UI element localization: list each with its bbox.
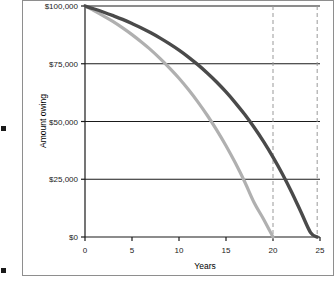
y-tick-label: $0 — [69, 233, 78, 242]
y-tick-label: $100,000 — [45, 2, 79, 11]
x-tick-label: 0 — [83, 246, 88, 255]
x-axis-tick-labels: 0510152025 — [83, 246, 325, 255]
x-tick-label: 10 — [175, 246, 184, 255]
y-axis-tick-labels: $0$25,000$50,000$75,000$100,000 — [45, 2, 79, 242]
amortization-chart: $0$25,000$50,000$75,000$100,000 05101520… — [0, 0, 335, 283]
y-axis-label: Amount owing — [38, 94, 48, 148]
x-axis-ticks — [85, 237, 320, 241]
y-tick-label: $75,000 — [49, 60, 78, 69]
x-tick-label: 20 — [269, 246, 278, 255]
x-tick-label: 25 — [316, 246, 325, 255]
y-tick-label: $50,000 — [49, 118, 78, 127]
x-tick-label: 5 — [130, 246, 135, 255]
x-axis-label: Years — [194, 261, 215, 271]
x-tick-label: 15 — [222, 246, 231, 255]
gridlines — [85, 6, 320, 237]
y-tick-label: $25,000 — [49, 175, 78, 184]
